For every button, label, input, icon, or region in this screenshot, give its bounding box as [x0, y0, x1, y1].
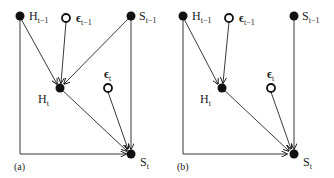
edge-epscur-scur	[108, 92, 128, 149]
node-h-cur	[218, 84, 227, 93]
node-eps-cur	[104, 84, 112, 92]
label-eps-cur: ϵt	[267, 67, 275, 83]
edge-hprev-hcur	[20, 17, 57, 84]
node-s-cur	[127, 150, 136, 159]
edge-sprev-hcur	[64, 17, 130, 84]
label-h-prev: Ht−1	[192, 9, 211, 25]
edge-epsprev-hcur	[223, 22, 229, 83]
node-s-cur	[290, 150, 299, 159]
label-h-cur: Ht	[38, 92, 50, 108]
node-eps-prev	[62, 14, 70, 22]
label-eps-prev: ϵt−1	[239, 11, 255, 27]
edge-hcur-scur	[222, 88, 289, 151]
dag-diagram: Ht−1 ϵt−1 St−1 Ht ϵt St (a) Ht−1 ϵt−1 St…	[0, 0, 334, 178]
label-h-prev: Ht−1	[29, 9, 48, 25]
node-h-prev	[179, 12, 188, 21]
edge-hcur-scur	[60, 88, 127, 151]
edge-epscur-scur	[271, 92, 291, 149]
node-h-cur	[56, 84, 65, 93]
node-h-prev	[16, 12, 25, 21]
label-s-prev: St−1	[302, 9, 319, 25]
node-s-prev	[290, 12, 299, 21]
label-s-cur: St	[303, 155, 313, 171]
edge-hprev-hcur	[183, 17, 218, 84]
label-eps-prev: ϵt−1	[76, 11, 92, 27]
panel-label-a: (a)	[14, 161, 25, 173]
label-h-cur: Ht	[200, 92, 212, 108]
node-eps-prev	[225, 14, 233, 22]
node-eps-cur	[267, 84, 275, 92]
panel-label-b: (b)	[177, 161, 189, 173]
label-s-cur: St	[140, 155, 150, 171]
panel-a: Ht−1 ϵt−1 St−1 Ht ϵt St (a)	[14, 9, 156, 173]
label-eps-cur: ϵt	[104, 67, 112, 83]
edge-epsprev-hcur	[61, 22, 66, 83]
node-s-prev	[127, 12, 136, 21]
panel-b: Ht−1 ϵt−1 St−1 Ht ϵt St (b)	[177, 9, 319, 173]
label-s-prev: St−1	[139, 9, 156, 25]
